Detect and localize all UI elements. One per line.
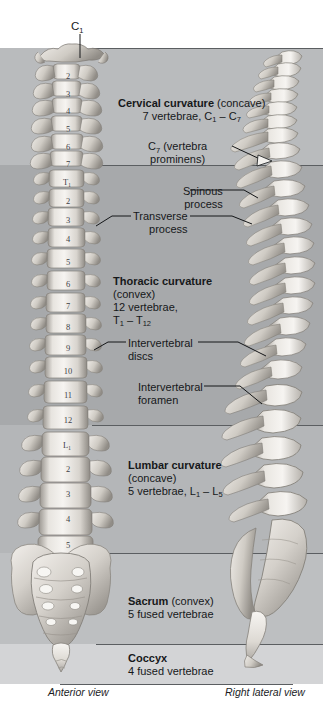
leader-foramen [204,386,262,404]
label-cervical-curvature: Cervical curvature (concave) 7 vertebrae… [118,97,265,123]
vertebra-number: 3 [57,89,79,99]
leader-transverse-left [96,216,131,226]
label-sacrum: Sacrum (convex) 5 fused vertebrae [128,595,214,621]
vertebra-number: 6 [57,279,79,289]
vertebra-number: 2 [57,196,79,206]
vertebra-number: T1 [56,177,78,187]
vertebra-number: 4 [57,514,79,524]
vertebra-number: 3 [57,489,79,499]
vertebra-number: 5 [57,124,79,134]
vertebra-number: 7 [57,159,79,169]
vertebra-number: 4 [57,234,79,244]
label-transverse-process: Transverse process [133,210,188,236]
leader-discs-right [198,342,266,356]
vertebra-number: 2 [57,71,79,81]
vertebra-number: 2 [57,464,79,474]
label-c1: C1 [71,20,83,34]
leader-transverse-right [190,216,252,224]
label-anterior-view: Anterior view [48,686,109,698]
label-c7-vertebra-prominens: C7 (vertebra prominens) [148,140,207,166]
vertebra-number: 8 [57,322,79,332]
label-coccyx: Coccyx 4 fused vertebrae [128,652,214,678]
vertebra-number: 3 [57,215,79,225]
vertebra-number: 9 [57,343,79,353]
vertebra-number: L1 [56,440,78,450]
vertebra-number: 4 [57,106,79,116]
label-spinous-process: Spinous process [183,185,223,211]
vertebra-number: 5 [57,540,79,550]
vertebral-column-figure: 234567T123456789101112L12345 C1 Cervical… [0,0,323,715]
vertebra-number: 6 [57,142,79,152]
leader-discs-left [94,342,126,350]
vertebra-number: 7 [57,301,79,311]
vertebra-number: 11 [57,390,79,400]
vertebra-number: 10 [57,366,79,376]
vertebra-number: 12 [57,415,79,425]
vertebra-number: 5 [57,257,79,267]
label-right-lateral-view: Right lateral view [225,686,305,698]
label-intervertebral-foramen: Intervertebral foramen [138,381,203,407]
label-intervertebral-discs: Intervertebral discs [128,337,193,363]
label-lumbar-curvature: Lumbar curvature (concave) 5 vertebrae, … [128,459,223,498]
label-thoracic-curvature: Thoracic curvature (convex) 12 vertebrae… [113,275,212,327]
